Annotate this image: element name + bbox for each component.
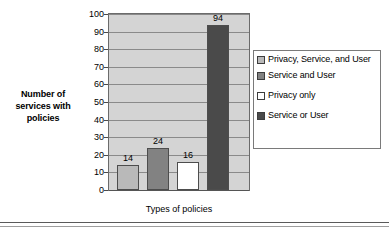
legend-swatch-icon [257,92,265,100]
bar-value-label: 24 [137,136,179,146]
gridline [109,190,249,191]
bar-value-label: 16 [167,150,209,160]
chart-legend: Privacy, Service, and UserService and Us… [253,50,381,149]
bar [207,25,229,190]
y-axis-tick-label: 100 [80,10,104,19]
bar-chart: Number of services with policies 0102030… [0,0,389,233]
y-axis-tick-label: 30 [80,133,104,142]
y-axis-title: Number of services with policies [4,88,82,124]
bar-column: 14 [117,14,139,190]
y-axis-tick-label: 20 [80,151,104,160]
legend-swatch-icon [257,56,265,64]
bar-column: 16 [177,14,199,190]
legend-item: Service and User [257,70,378,81]
y-axis-tick-label: 0 [80,186,104,195]
bar [147,148,169,190]
y-axis-tick-label: 80 [80,45,104,54]
y-axis-tick-label: 10 [80,168,104,177]
legend-item-label: Service or User [268,110,329,121]
bar-column: 94 [207,14,229,190]
y-axis-tick-labels: 0102030405060708090100 [78,13,104,191]
footer-divider-secondary [0,226,389,227]
footer-divider [0,222,389,223]
y-axis-tick-label: 50 [80,98,104,107]
bar-series: 14241694 [109,14,249,190]
y-axis-tick-label: 70 [80,63,104,72]
y-axis-tick-label: 60 [80,80,104,89]
legend-item: Privacy only [257,90,378,101]
bar [177,162,199,190]
legend-item-label: Privacy, Service, and User [268,54,371,65]
y-axis-tick-label: 90 [80,28,104,37]
bar-column: 24 [147,14,169,190]
x-axis-title: Types of policies [108,204,250,215]
bar-value-label: 94 [197,13,239,23]
legend-item: Privacy, Service, and User [257,54,378,65]
bar-value-label: 14 [107,153,149,163]
y-axis-tick-label: 40 [80,116,104,125]
legend-swatch-icon [257,112,265,120]
legend-item-label: Service and User [268,70,335,81]
legend-swatch-icon [257,72,265,80]
plot-area: 14241694 [108,13,250,191]
legend-item: Service or User [257,110,378,121]
bar [117,165,139,190]
legend-item-label: Privacy only [268,90,315,101]
